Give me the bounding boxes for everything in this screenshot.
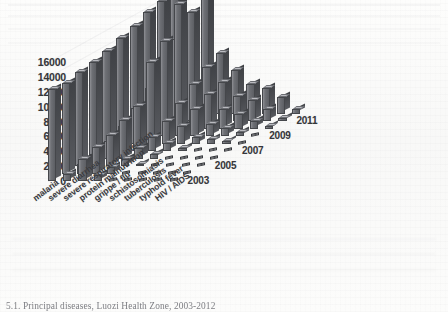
bar-front-face xyxy=(265,126,273,128)
bar-column xyxy=(78,0,86,181)
bar-front-face xyxy=(250,121,258,128)
bar-tile-zero xyxy=(251,133,259,138)
bar-side-face xyxy=(56,83,61,178)
bar-front-face xyxy=(178,148,186,151)
figure-caption: 5.1. Principal diseases, Luozi Health Zo… xyxy=(6,301,442,311)
bar-front-face xyxy=(278,118,286,121)
bar-front-face xyxy=(192,137,200,144)
bar-column xyxy=(163,0,171,151)
bar-front-face xyxy=(292,109,300,113)
bar-tile-zero xyxy=(195,155,203,160)
bar-column xyxy=(250,0,258,129)
bar-column xyxy=(278,0,286,121)
bar-column xyxy=(48,0,56,181)
bar-tile-zero xyxy=(224,148,232,153)
bar-front-face xyxy=(222,141,230,143)
bar-column xyxy=(192,0,200,144)
year-label: 2009 xyxy=(269,130,290,141)
year-label: 2011 xyxy=(296,115,317,126)
bar-front-face xyxy=(163,143,171,151)
year-label: 2003 xyxy=(188,175,209,186)
year-label: 2007 xyxy=(242,145,263,156)
chart-3d-column: 1600014000120001000080006000400020000 ma… xyxy=(0,0,448,312)
bar-column xyxy=(107,0,115,174)
bar-front-face xyxy=(236,132,244,136)
bar-column xyxy=(207,0,215,144)
bar-column xyxy=(236,0,244,136)
bar-column xyxy=(222,0,230,144)
bar-column xyxy=(265,0,273,129)
bar-column xyxy=(292,0,300,114)
bar-front-face xyxy=(48,89,56,181)
bar-tile-zero xyxy=(194,148,202,153)
bar-column xyxy=(178,0,186,151)
bar-tile-zero xyxy=(180,155,188,160)
bar-front-face xyxy=(207,139,215,143)
bar-tile-zero xyxy=(165,155,173,160)
year-label: 2005 xyxy=(215,160,236,171)
bar-tile-zero xyxy=(197,163,205,168)
bar-column xyxy=(94,0,102,181)
bar-tile-zero xyxy=(182,163,190,168)
bar-column xyxy=(63,0,71,181)
bar-tile-zero xyxy=(209,148,217,153)
bar-column xyxy=(121,0,129,166)
bar-front-face xyxy=(136,164,144,166)
bars-layer xyxy=(0,0,448,312)
